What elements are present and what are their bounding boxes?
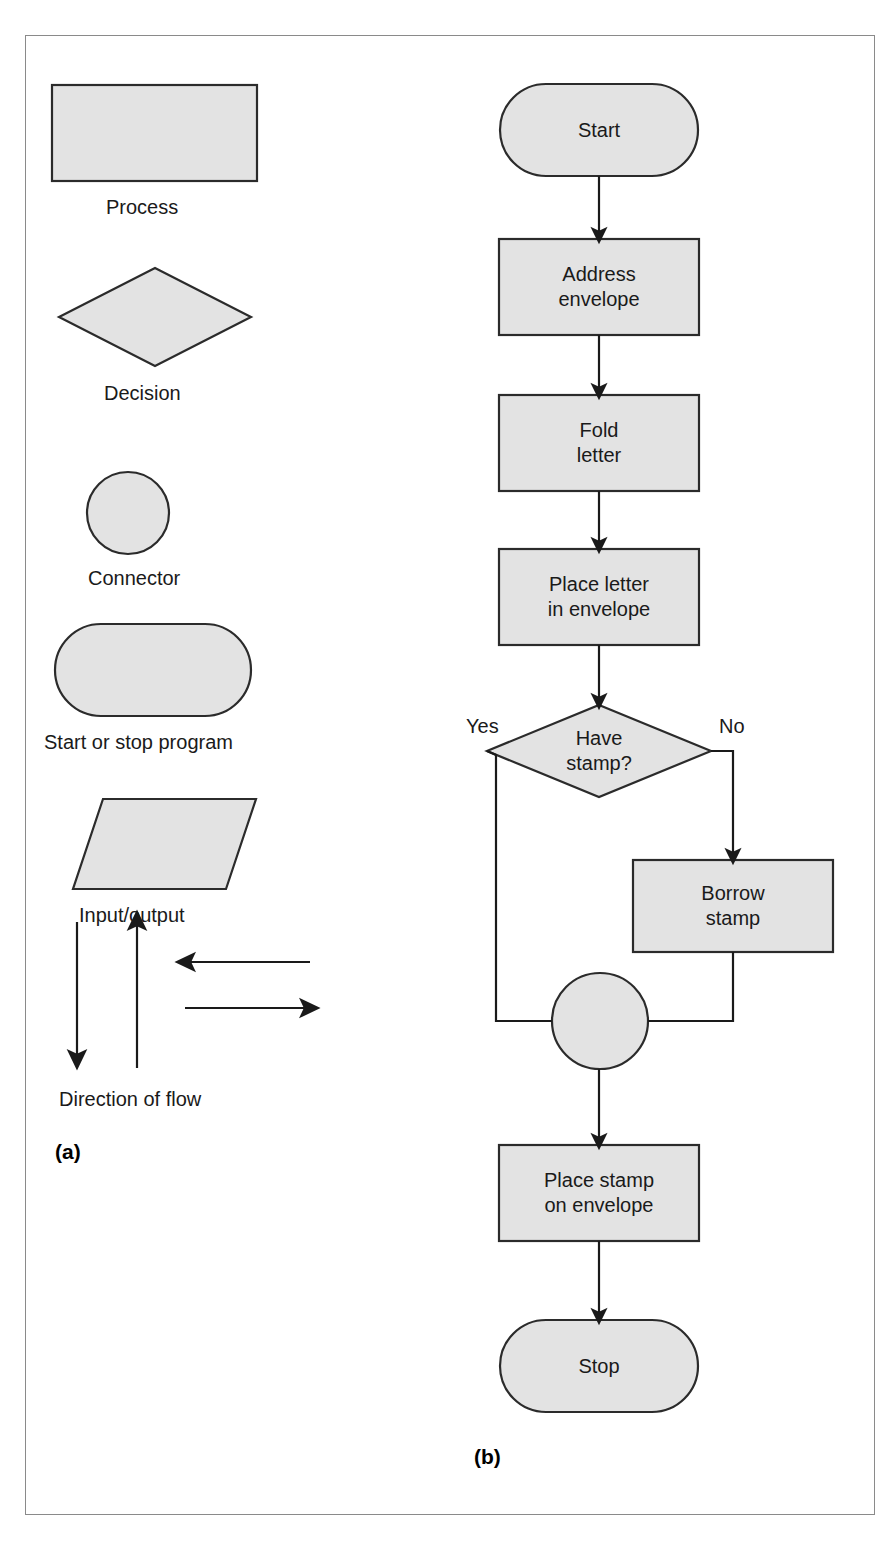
flow-node-start — [500, 84, 698, 176]
flow-node-have-stamp-decision — [487, 705, 711, 797]
figure-vector-layer — [0, 0, 892, 1541]
legend-symbol-connector — [87, 472, 169, 554]
legend-symbol-direction-of-flow — [77, 920, 310, 1068]
legend-label-process: Process — [106, 196, 178, 219]
flow-node-fold-letter — [499, 395, 699, 491]
flow-node-place-letter-in-envelope — [499, 549, 699, 645]
flow-branch-label-no: No — [719, 715, 745, 738]
flow-node-connector-junction — [552, 973, 648, 1069]
legend-label-direction-of-flow: Direction of flow — [59, 1088, 201, 1111]
panel-tag-b: (b) — [474, 1445, 501, 1469]
legend-symbol-decision — [59, 268, 251, 366]
flow-edge-decision-no-to-borrow — [711, 751, 733, 857]
legend-label-input-output: Input/output — [79, 904, 185, 927]
flow-node-address-envelope — [499, 239, 699, 335]
flow-branch-label-yes: Yes — [466, 715, 499, 738]
legend-symbol-input-output — [73, 799, 256, 889]
flow-node-stop — [500, 1320, 698, 1412]
legend-label-terminator: Start or stop program — [44, 731, 233, 754]
legend-symbol-process — [52, 85, 257, 181]
flow-edge-borrow-to-junction — [648, 952, 733, 1021]
figure-root: Process Decision Connector Start or stop… — [0, 0, 892, 1541]
legend-label-connector: Connector — [88, 567, 180, 590]
flow-edge-decision-yes-to-junction — [487, 751, 552, 1021]
legend-label-decision: Decision — [104, 382, 181, 405]
flow-node-place-stamp-on-envelope — [499, 1145, 699, 1241]
flow-node-borrow-stamp — [633, 860, 833, 952]
panel-tag-a: (a) — [55, 1140, 81, 1164]
legend-symbol-terminator — [55, 624, 251, 716]
